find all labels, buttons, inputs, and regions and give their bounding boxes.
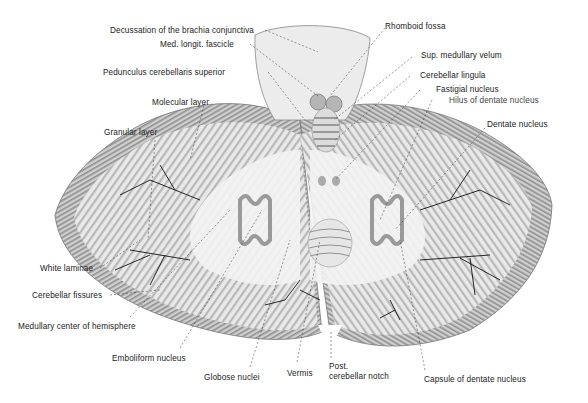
- fastigial-nucleus-right: [332, 176, 340, 186]
- label-emboliform-nucleus: Emboliform nucleus: [112, 355, 186, 363]
- label-rhomboid-fossa: Rhomboid fossa: [385, 23, 446, 31]
- label-sup-medullary-velum: Sup. medullary velum: [421, 52, 502, 60]
- cerebellum-section-figure: Decussation of the brachia conjunctiva M…: [0, 0, 588, 403]
- label-molecular-layer: Molecular layer: [152, 99, 209, 107]
- posterior-cerebellar-notch: [318, 325, 342, 340]
- label-med-longit-fascicle: Med. longit. fascicle: [160, 41, 234, 49]
- label-dentate-nucleus: Dentate nucleus: [487, 121, 548, 129]
- label-pedunculus-cerebellaris-superior: Pedunculus cerebellaris superior: [103, 69, 225, 77]
- label-cerebellar-fissures: Cerebellar fissures: [32, 292, 102, 300]
- label-post-cerebellar-notch-line2: cerebellar notch: [329, 373, 389, 381]
- label-cerebellar-lingula: Cerebellar lingula: [420, 72, 486, 80]
- label-vermis: Vermis: [287, 370, 313, 378]
- label-post-cerebellar-notch-line1: Post.: [329, 363, 348, 371]
- fastigial-nucleus-left: [318, 176, 326, 186]
- label-hilus-of-dentate-nucleus: Hilus of dentate nucleus: [449, 97, 539, 105]
- cerebellum-illustration: [0, 0, 588, 403]
- label-fastigial-nucleus: Fastigial nucleus: [436, 86, 499, 94]
- left-superior-peduncle: [310, 94, 326, 110]
- label-white-laminae: White laminae: [40, 265, 93, 273]
- vermis: [308, 219, 352, 267]
- label-granular-layer: Granular layer: [104, 129, 157, 137]
- label-capsule-of-dentate-nucleus: Capsule of dentate nucleus: [424, 376, 526, 384]
- label-decussation-brachia-conjunctiva: Decussation of the brachia conjunctiva: [110, 27, 254, 35]
- label-globose-nuclei: Globose nuclei: [204, 374, 260, 382]
- label-medullary-center-of-hemisphere: Medullary center of hemisphere: [18, 323, 136, 331]
